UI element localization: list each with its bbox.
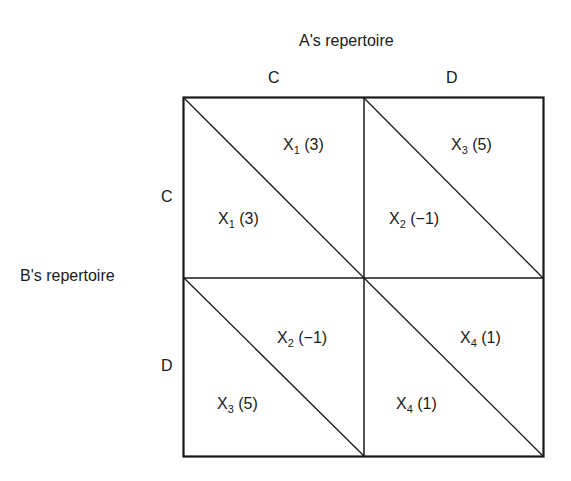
diagonal-dd bbox=[364, 278, 543, 456]
cell-cd-a-payoff: X3 (5) bbox=[451, 137, 492, 156]
cell-dd-b-payoff: X4 (1) bbox=[396, 396, 437, 415]
payoff-matrix-grid bbox=[0, 0, 571, 481]
cell-cd-b-payoff: X2 (−1) bbox=[389, 211, 439, 230]
diagonal-dc bbox=[184, 278, 364, 456]
cell-dc-a-payoff: X2 (−1) bbox=[277, 330, 327, 349]
diagonal-cc bbox=[184, 98, 364, 278]
cell-dc-b-payoff: X3 (5) bbox=[217, 396, 258, 415]
cell-cc-a-payoff: X1 (3) bbox=[283, 137, 324, 156]
cell-dd-a-payoff: X4 (1) bbox=[460, 330, 501, 349]
cell-cc-b-payoff: X1 (3) bbox=[218, 211, 259, 230]
diagonal-cd bbox=[364, 98, 543, 278]
